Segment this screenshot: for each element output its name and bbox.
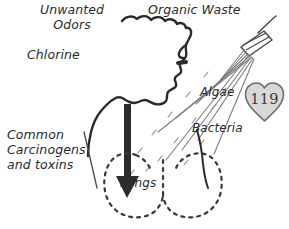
label-lungs: Lungs xyxy=(120,176,156,190)
label-bacteria: Bacteria xyxy=(192,121,243,135)
water-spray-lines xyxy=(158,50,254,160)
label-organic-waste: Organic Waste xyxy=(148,3,241,18)
label-chlorine: Chlorine xyxy=(27,48,80,63)
carcinogens-pointer-line xyxy=(84,132,97,188)
label-common-carcinogens: Common Carcinogens and toxins xyxy=(7,128,86,172)
page-number: 119 xyxy=(242,91,287,107)
head-profile-outline xyxy=(88,16,191,156)
label-unwanted-odors: Unwanted Odors xyxy=(26,3,118,33)
heart-page-badge: 119 xyxy=(242,79,287,125)
shoulder-line-right xyxy=(197,130,208,188)
shower-head-icon xyxy=(241,16,276,56)
shower-contaminants-diagram: Unwanted Odors Chlorine Organic Waste Al… xyxy=(0,0,289,229)
label-algae: Algae xyxy=(200,85,234,99)
